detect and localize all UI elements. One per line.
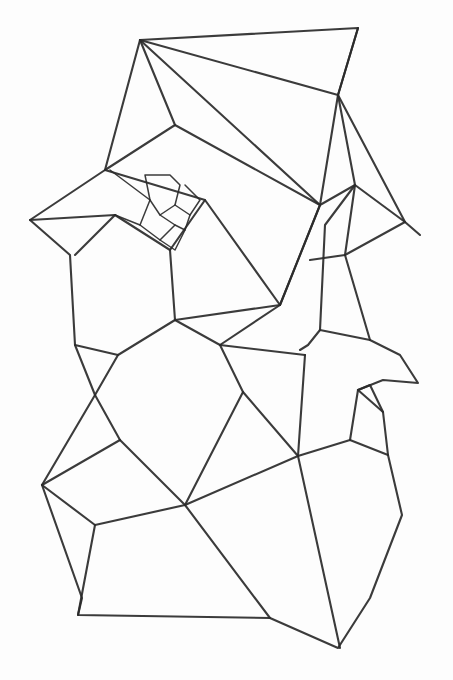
pencil-line — [75, 215, 115, 255]
pencil-line — [170, 250, 280, 320]
pencil-line — [140, 40, 405, 222]
sketch-canvas: Pencil sketch of polygonal (Voronoi-like… — [0, 0, 453, 680]
pencil-line — [345, 185, 405, 255]
pencil-line — [338, 95, 355, 185]
pencil-line — [145, 175, 180, 215]
pencil-line — [310, 255, 345, 260]
pencil-line — [175, 125, 320, 305]
pencil-line — [298, 456, 340, 648]
pencil-line — [243, 392, 298, 456]
polygon-mesh-drawing — [0, 0, 453, 680]
pencil-line — [298, 355, 305, 456]
pencil-line — [175, 305, 280, 345]
pencil-line — [95, 320, 175, 395]
pencil-line — [140, 40, 338, 205]
web-detail-lines — [110, 170, 200, 250]
pencil-line — [42, 440, 120, 485]
pencil-line — [110, 170, 150, 200]
pencil-line — [220, 345, 305, 355]
pencil-line — [95, 395, 120, 440]
pencil-line — [75, 345, 118, 355]
pencil-line — [298, 440, 388, 456]
pencil-line — [338, 28, 358, 95]
pencil-line — [140, 28, 420, 235]
pencil-line — [185, 505, 270, 618]
mesh-lines — [30, 28, 420, 648]
pencil-line — [78, 525, 95, 615]
pencil-line — [185, 345, 243, 505]
pencil-line — [105, 40, 175, 170]
pencil-line — [120, 440, 298, 505]
pencil-line — [42, 485, 185, 525]
pencil-line — [350, 390, 358, 440]
pencil-line — [345, 255, 370, 340]
